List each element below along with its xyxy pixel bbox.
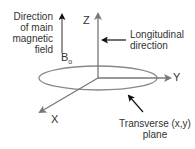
transverse-line-2: plane	[115, 129, 195, 140]
longitudinal-line-2: direction	[130, 40, 184, 51]
field-direction-label: Direction of main magnetic field	[2, 11, 53, 55]
transverse-line-1: Transverse (x,y)	[115, 118, 195, 129]
transverse-pointer-arrow	[129, 96, 143, 112]
y-axis-label: Y	[173, 72, 180, 83]
longitudinal-line-1: Longitudinal	[130, 29, 184, 40]
longitudinal-direction-label: Longitudinal direction	[130, 29, 184, 51]
field-label-line-3: magnetic	[2, 33, 53, 44]
field-label-line-4: field	[2, 44, 53, 55]
field-label-line-1: Direction	[2, 11, 53, 22]
transverse-plane-label: Transverse (x,y) plane	[115, 118, 195, 140]
x-axis-label: X	[51, 114, 58, 125]
b0-subscript: o	[68, 58, 72, 65]
x-axis	[40, 78, 98, 112]
z-axis-label: Z	[83, 15, 90, 26]
field-label-line-2: of main	[2, 22, 53, 33]
b0-symbol: Bo	[61, 52, 72, 64]
